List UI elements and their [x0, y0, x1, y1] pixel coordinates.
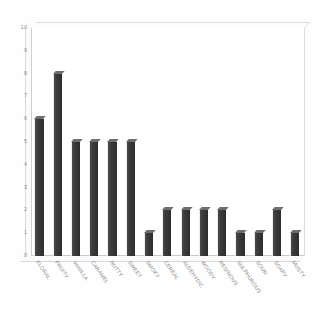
bar[interactable] [162, 210, 171, 256]
x-axis-tick-label: WOODY [200, 260, 217, 281]
bar[interactable] [254, 233, 263, 256]
x-axis-labels: FLORALFRUITYVANILLACARAMELNUTTYSWEETSMOK… [31, 258, 305, 329]
bar[interactable] [71, 142, 80, 256]
bar-slot [34, 119, 43, 256]
x-axis-tick-label: MUSTY [291, 260, 306, 279]
bar-top-face [126, 139, 138, 142]
bar-top-face [107, 139, 119, 142]
x-axis-tick-label: SOUR [254, 260, 267, 276]
x-axis-tick-label: FRUITY [53, 260, 69, 279]
bar[interactable] [144, 233, 153, 256]
bar-slot [254, 233, 263, 256]
bar-slot [71, 142, 80, 256]
bar-slot [181, 210, 190, 256]
bar-top-face [144, 230, 156, 233]
x-axis-tick-label: FLORAL [35, 260, 52, 281]
bar-top-face [290, 230, 302, 233]
bar[interactable] [53, 74, 62, 256]
x-axis-tick-label: VANILLA [72, 260, 89, 281]
y-axis-tick-label: 6 [24, 116, 27, 121]
bar-top-face [235, 230, 247, 233]
bar-slot [272, 210, 281, 256]
bar[interactable] [89, 142, 98, 256]
bar[interactable] [34, 119, 43, 256]
y-axis-tick-label: 9 [24, 48, 27, 53]
bar[interactable] [107, 142, 116, 256]
bar-top-face [181, 207, 193, 210]
x-axis-tick-label: SOAPY [273, 260, 288, 279]
bar-slot [107, 142, 116, 256]
bar-slot [144, 233, 153, 256]
bar-top-face [272, 207, 284, 210]
x-axis-tick-label: NUTTY [108, 260, 123, 278]
y-axis-tick-label: 3 [24, 185, 27, 190]
bar-top-face [89, 139, 101, 142]
bar[interactable] [126, 142, 135, 256]
y-axis-tick-label: 1 [24, 230, 27, 235]
bar-top-face [71, 139, 83, 142]
bar[interactable] [199, 210, 208, 256]
bar-top-face [217, 207, 229, 210]
bar[interactable] [290, 233, 299, 256]
y-axis-tick-label: 0 [24, 253, 27, 258]
y-axis-tick-label: 5 [24, 139, 27, 144]
y-axis-tick-label: 2 [24, 208, 27, 213]
x-axis-tick-label: CARAMEL [90, 260, 110, 285]
bar-slot [217, 210, 226, 256]
y-axis: 109876543210 [0, 0, 31, 329]
bar[interactable] [272, 210, 281, 256]
bar-slot [235, 233, 244, 256]
y-axis-tick-label: 7 [24, 94, 27, 99]
bar[interactable] [181, 210, 190, 256]
bar-top-face [34, 116, 46, 119]
bar-slot [162, 210, 171, 256]
bar-slot [199, 210, 208, 256]
x-axis-tick-label: CEREAL [163, 260, 180, 281]
y-axis-tick-label: 8 [24, 71, 27, 76]
bar-slot [290, 233, 299, 256]
x-axis-tick-label: SWEET [126, 260, 142, 279]
bar-chart: 109876543210 FLORALFRUITYVANILLACARAMELN… [0, 0, 322, 329]
bar-top-face [53, 71, 65, 74]
bar[interactable] [217, 210, 226, 256]
bar-top-face [162, 207, 174, 210]
bar-slot [53, 74, 62, 256]
x-axis-tick-label: SMOKY [145, 260, 161, 279]
bar-series [31, 28, 305, 256]
bar-top-face [199, 207, 211, 210]
bar-slot [89, 142, 98, 256]
y-axis-tick-label: 4 [24, 162, 27, 167]
bar-slot [126, 142, 135, 256]
bar-top-face [254, 230, 266, 233]
bar[interactable] [235, 233, 244, 256]
y-axis-tick-label: 10 [21, 25, 27, 30]
